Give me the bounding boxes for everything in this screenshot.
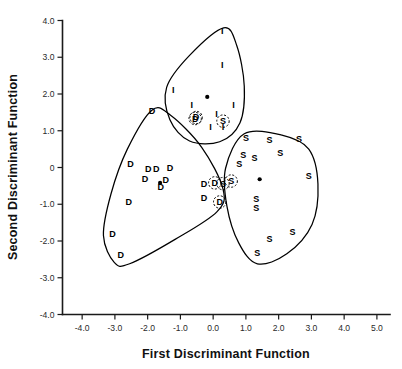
data-point-S: S [220,116,226,126]
axis-tick-label-layer: -4.0-3.0-2.0-1.00.01.02.03.04.05.04.03.0… [40,16,383,333]
discriminant-function-scatter-figure: -4.0-3.0-2.0-1.00.01.02.03.04.05.04.03.0… [0,0,402,369]
data-point-I: I [221,60,224,70]
data-point-I: I [209,122,212,132]
data-point-D: D [153,164,160,174]
data-point-S: S [251,153,257,163]
data-point-S: S [266,234,272,244]
data-point-S: S [253,203,259,213]
y-tick-label: -4.0 [40,310,55,320]
y-tick-label: 3.0 [43,52,55,62]
data-point-S: S [220,179,226,189]
x-tick-label: -1.0 [173,323,188,333]
x-tick-label: 1.0 [240,323,252,333]
data-point-S: S [306,171,312,181]
data-point-I: I [191,100,194,110]
data-point-D: D [109,229,116,239]
x-tick-label: 2.0 [273,323,285,333]
data-point-S: S [277,148,283,158]
y-axis-title: Second Discriminant Function [6,74,20,260]
data-point-I: I [232,100,235,110]
hull-I [165,28,244,144]
data-point-D: D [201,193,208,203]
data-point-I: I [221,26,224,36]
cluster-centroid-S [258,177,262,181]
data-point-D: D [216,197,223,207]
data-point-D: D [167,163,174,173]
y-tick-label: 1.0 [43,126,55,136]
plot-canvas: -4.0-3.0-2.0-1.00.01.02.03.04.05.04.03.0… [0,0,402,369]
y-tick-label: 4.0 [43,16,55,26]
data-point-D: D [192,114,199,124]
data-point-D: D [142,174,149,184]
x-tick-label: -2.0 [140,323,155,333]
x-tick-label: 3.0 [305,323,317,333]
data-point-S: S [296,134,302,144]
x-tick-label: -4.0 [75,323,90,333]
cluster-centroid-D [158,181,162,185]
cluster-hull-layer [103,28,318,267]
data-point-S: S [266,135,272,145]
data-point-S: S [236,159,242,169]
y-tick-label: -3.0 [40,273,55,283]
data-point-D: D [149,106,156,116]
data-point-D: D [145,164,152,174]
axis-tick-layer [58,21,377,320]
data-point-I: I [172,85,175,95]
hull-S [224,131,318,264]
data-point-I: I [215,109,218,119]
data-point-D: D [125,197,132,207]
data-point-D: D [127,159,134,169]
x-tick-label: 5.0 [371,323,383,333]
y-tick-label: -2.0 [40,236,55,246]
cluster-centroid-I [205,95,209,99]
x-tick-label: -3.0 [107,323,122,333]
data-point-S: S [243,133,249,143]
x-axis-title: First Discriminant Function [142,347,310,361]
y-tick-label: -1.0 [40,199,55,209]
y-tick-label: 2.0 [43,89,55,99]
x-tick-label: 0.0 [207,323,219,333]
data-point-layer: DDDDDDDDDDDDDDDDIIIIIIIIDSSSSSSSSSSSSSSS… [109,26,311,259]
x-tick-label: 4.0 [338,323,350,333]
data-point-D: D [201,179,208,189]
data-point-D: D [118,250,125,260]
data-point-S: S [289,227,295,237]
y-tick-label: 0 [50,163,55,173]
data-point-S: S [254,248,260,258]
